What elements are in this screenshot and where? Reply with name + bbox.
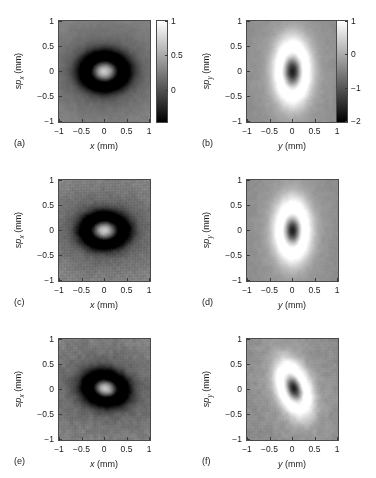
y-tick <box>247 364 250 365</box>
x-tick-label: −0.5 <box>73 286 90 295</box>
x-tick-label: −0.5 <box>261 127 278 136</box>
y-tick-label: −1 <box>221 117 242 126</box>
figure-root: −1−0.500.51−1−0.500.51 x (mm) spx (mm) (… <box>0 0 376 478</box>
x-tick <box>292 437 293 440</box>
y-tick-label: −1 <box>33 435 54 444</box>
y-tick-label: −1 <box>33 276 54 285</box>
y-tick-label: −0.5 <box>33 92 54 101</box>
x-tick <box>82 278 83 281</box>
x-tick <box>104 119 105 122</box>
y-tick <box>59 121 62 122</box>
x-tick-label: −1 <box>242 445 252 454</box>
y-tick <box>247 46 250 47</box>
x-tick-label: 0 <box>290 445 295 454</box>
y-tick-label: 0 <box>33 385 54 394</box>
panel-d-xlabel: y (mm) <box>278 301 306 310</box>
panel-e-plot-area <box>58 338 151 441</box>
y-tick <box>59 205 62 206</box>
y-tick <box>59 71 62 72</box>
y-tick-label: 1 <box>33 335 54 344</box>
y-tick <box>59 255 62 256</box>
y-tick <box>59 389 62 390</box>
y-tick-label: 0 <box>221 385 242 394</box>
y-tick-label: 1 <box>33 176 54 185</box>
panel-c-label: (c) <box>14 298 25 307</box>
x-tick <box>270 119 271 122</box>
panel-e-xlabel: x (mm) <box>90 460 118 469</box>
y-tick <box>59 364 62 365</box>
colorbar-tick-label: 0.5 <box>171 51 183 60</box>
y-tick <box>59 280 62 281</box>
x-tick-label: 1 <box>147 445 152 454</box>
x-tick-label: 0 <box>102 445 107 454</box>
x-tick-label: 0 <box>102 286 107 295</box>
colorbar-tick <box>165 55 168 56</box>
panel-a-ylabel: spx (mm) <box>14 53 25 89</box>
colorbar-tick <box>345 121 348 122</box>
colorbar-tick-label: 0 <box>351 50 356 59</box>
y-tick <box>59 439 62 440</box>
x-tick-label: 0.5 <box>121 445 133 454</box>
y-tick-label: −1 <box>33 117 54 126</box>
colorbar-tick <box>345 54 348 55</box>
x-tick-label: −0.5 <box>73 127 90 136</box>
y-tick <box>247 121 250 122</box>
y-tick-label: 1 <box>33 17 54 26</box>
panel-f-label: (f) <box>202 457 211 466</box>
x-tick <box>127 437 128 440</box>
x-tick-label: 1 <box>147 127 152 136</box>
x-tick-label: 0 <box>102 127 107 136</box>
y-tick-label: 0.5 <box>221 42 242 51</box>
panel-b-ylabel: spy (mm) <box>202 53 213 89</box>
panel-c-xlabel: x (mm) <box>90 301 118 310</box>
panel-a-xlabel: x (mm) <box>90 142 118 151</box>
x-tick-label: −1 <box>242 286 252 295</box>
y-tick <box>247 230 250 231</box>
panel-f-plot-area <box>246 338 339 441</box>
y-tick <box>247 389 250 390</box>
x-tick <box>337 278 338 281</box>
y-tick-label: 1 <box>221 335 242 344</box>
panel-a-colorbar-gradient <box>157 21 167 122</box>
panel-b-colorbar: 10−1−2 <box>336 20 376 121</box>
x-tick-label: −0.5 <box>73 445 90 454</box>
panel-e-heatmap <box>59 339 150 440</box>
x-tick <box>127 119 128 122</box>
panel-d: −1−0.500.51−1−0.500.51 y (mm) spy (mm) (… <box>188 159 376 318</box>
panel-e: −1−0.500.51−1−0.500.51 x (mm) spx (mm) (… <box>0 318 188 478</box>
panel-a-label: (a) <box>14 139 25 148</box>
x-tick <box>292 278 293 281</box>
y-tick-label: −0.5 <box>33 410 54 419</box>
x-tick-label: 1 <box>335 286 340 295</box>
panel-b-xlabel: y (mm) <box>278 142 306 151</box>
y-tick-label: 0 <box>33 226 54 235</box>
colorbar-tick-label: 1 <box>171 17 176 26</box>
x-tick <box>270 437 271 440</box>
panel-f-heatmap <box>247 339 338 440</box>
y-tick-label: 0.5 <box>221 360 242 369</box>
y-tick-label: 0 <box>221 67 242 76</box>
x-tick <box>149 119 150 122</box>
y-tick-label: −0.5 <box>221 410 242 419</box>
x-tick <box>315 119 316 122</box>
panel-f-xlabel: y (mm) <box>278 460 306 469</box>
y-tick <box>247 96 250 97</box>
x-tick <box>127 278 128 281</box>
y-tick-label: 0.5 <box>33 201 54 210</box>
y-tick-label: −0.5 <box>33 251 54 260</box>
panel-a-plot-area <box>58 20 151 123</box>
x-tick-label: −1 <box>54 286 64 295</box>
x-tick <box>104 278 105 281</box>
colorbar-tick-label: −2 <box>351 117 361 126</box>
panel-a-colorbar: 10.50 <box>156 20 188 121</box>
y-tick <box>247 280 250 281</box>
y-tick <box>59 230 62 231</box>
panel-d-ylabel: spy (mm) <box>202 212 213 248</box>
x-tick <box>104 437 105 440</box>
x-tick <box>149 437 150 440</box>
y-tick-label: −1 <box>221 435 242 444</box>
y-tick <box>247 439 250 440</box>
y-tick-label: −1 <box>221 276 242 285</box>
panel-a-colorbar-strip <box>156 20 168 123</box>
x-tick-label: 0.5 <box>309 286 321 295</box>
